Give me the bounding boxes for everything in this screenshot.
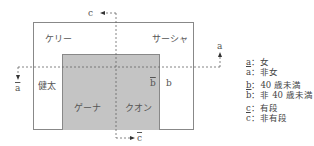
region-kenta: 健太: [38, 82, 56, 91]
label-c: c: [88, 9, 93, 18]
region-kuon: クオン: [125, 104, 152, 113]
legend-item: c：非有段: [246, 113, 313, 123]
label-b-bar: b: [150, 79, 156, 88]
region-gena: ゲーナ: [74, 104, 101, 113]
legend-group-b: b：40 歳未満 b：非 40 歳未満: [246, 80, 313, 100]
legend: a：女 a：非女 b：40 歳未満 b：非 40 歳未満 c：有段 c：非有段: [246, 57, 313, 126]
region-kerry: ケリー: [45, 35, 72, 44]
legend-item: a：非女: [246, 67, 313, 77]
label-a-bar: a: [15, 84, 20, 93]
legend-item: b：40 歳未満: [246, 80, 313, 90]
legend-item: c：有段: [246, 103, 313, 113]
region-sasha: サーシャ: [152, 35, 188, 44]
label-c-bar: c: [137, 134, 142, 143]
legend-group-a: a：女 a：非女: [246, 57, 313, 77]
legend-item: a：女: [246, 57, 313, 67]
label-a: a: [217, 42, 222, 51]
legend-item: b：非 40 歳未満: [246, 90, 313, 100]
label-b: b: [166, 79, 172, 88]
legend-group-c: c：有段 c：非有段: [246, 103, 313, 123]
